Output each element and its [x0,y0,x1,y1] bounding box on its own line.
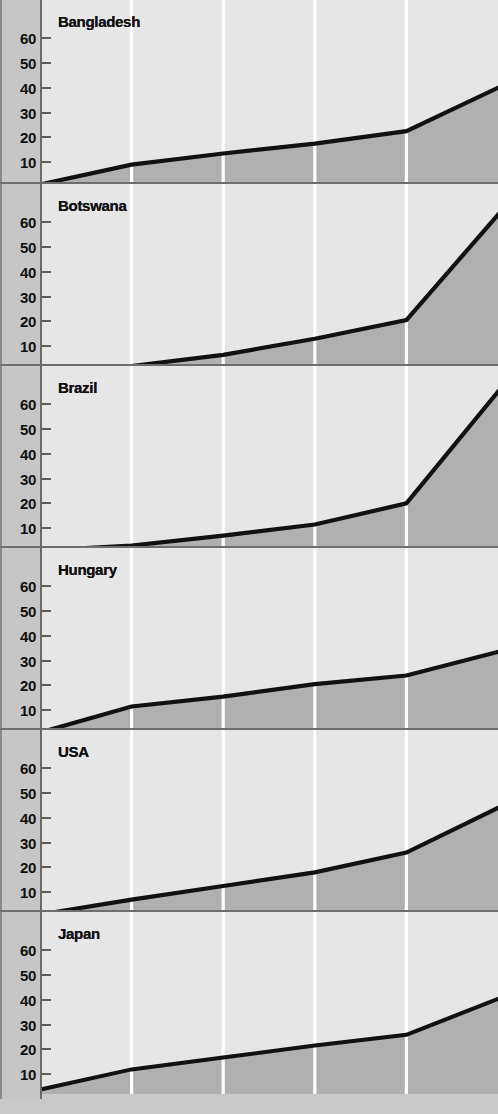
panel-title-botswana: Botswana [58,197,126,214]
y-axis-tick-mark [42,296,51,298]
y-axis-tick-mark [42,403,51,405]
y-axis-tick-mark [42,221,51,223]
gridline [130,366,133,546]
y-axis-tick-mark [42,1048,51,1050]
y-axis-tick-mark [42,246,51,248]
gridline [405,184,408,364]
y-axis-tick-mark [42,161,51,163]
y-axis-tick-label: 40 [2,446,36,461]
gridline [313,366,316,546]
chart-panel: 605040302010Bangladesh [0,0,498,182]
y-axis-tick-label: 10 [2,339,36,354]
y-axis-tick-label: 40 [2,264,36,279]
y-axis-tick-label: 40 [2,80,36,95]
y-axis-tick-mark [42,453,51,455]
y-axis-tick-mark [42,87,51,89]
gridline [313,912,316,1094]
y-axis-tick-mark [42,478,51,480]
gridline [222,548,225,728]
chart-panel: 605040302010Brazil [0,364,498,546]
y-axis-tick-mark [42,635,51,637]
gridline [222,730,225,910]
y-axis-tick-label: 50 [2,786,36,801]
y-axis-gutter: 605040302010 [0,912,40,1099]
y-axis-tick-mark [42,684,51,686]
chart-panel: 605040302010Japan [0,910,498,1099]
y-axis-tick-label: 30 [2,653,36,668]
y-axis-tick-label: 20 [2,860,36,875]
gridline [130,730,133,910]
y-axis-line [40,184,42,364]
gridline [313,548,316,728]
y-axis-line [40,912,42,1099]
y-axis-tick-label: 30 [2,105,36,120]
y-axis-tick-mark [42,62,51,64]
y-axis-tick-label: 30 [2,1017,36,1032]
y-axis-tick-label: 20 [2,496,36,511]
y-axis-tick-label: 10 [2,521,36,536]
y-axis-line [40,366,42,546]
gridline [405,548,408,728]
y-axis-tick-label: 10 [2,885,36,900]
gridline [222,184,225,364]
y-axis-gutter: 605040302010 [0,0,40,182]
y-axis-tick-label: 40 [2,810,36,825]
y-axis-tick-label: 50 [2,968,36,983]
chart-panel: 605040302010Botswana [0,182,498,364]
y-axis-tick-label: 50 [2,240,36,255]
plot-area [40,730,498,910]
y-axis-tick-label: 60 [2,579,36,594]
y-axis-tick-label: 20 [2,130,36,145]
y-axis-line [40,730,42,910]
gridline [130,912,133,1094]
y-axis-tick-mark [42,1024,51,1026]
y-axis-tick-mark [42,817,51,819]
panel-title-bangladesh: Bangladesh [58,13,140,30]
y-axis-tick-mark [42,792,51,794]
y-axis-tick-label: 60 [2,397,36,412]
y-axis-tick-label: 60 [2,31,36,46]
chart-panel: 605040302010USA [0,728,498,910]
y-axis-tick-mark [42,271,51,273]
y-axis-tick-mark [42,502,51,504]
y-axis-tick-label: 60 [2,215,36,230]
y-axis-tick-mark [42,949,51,951]
gridline [405,730,408,910]
y-axis-tick-label: 30 [2,835,36,850]
y-axis-tick-mark [42,37,51,39]
y-axis-tick-label: 40 [2,628,36,643]
y-axis-tick-label: 20 [2,1042,36,1057]
y-axis-tick-label: 30 [2,289,36,304]
y-axis-tick-mark [42,842,51,844]
panel-title-hungary: Hungary [58,561,117,578]
y-axis-tick-mark [42,891,51,893]
y-axis-tick-label: 60 [2,761,36,776]
y-axis-tick-label: 40 [2,992,36,1007]
y-axis-tick-mark [42,112,51,114]
y-axis-gutter: 605040302010 [0,548,40,728]
y-axis-tick-mark [42,345,51,347]
y-axis-tick-mark [42,660,51,662]
y-axis-gutter: 605040302010 [0,366,40,546]
gridline [313,0,316,182]
panel-title-usa: USA [58,743,89,760]
y-axis-gutter: 605040302010 [0,184,40,364]
gridline [222,366,225,546]
gridline [405,912,408,1094]
y-axis-tick-label: 10 [2,155,36,170]
plot-area [40,912,498,1099]
y-axis-tick-mark [42,866,51,868]
gridline [130,548,133,728]
y-axis-tick-mark [42,767,51,769]
y-axis-line [40,0,42,182]
y-axis-tick-mark [42,709,51,711]
y-axis-tick-label: 10 [2,703,36,718]
y-axis-tick-label: 60 [2,943,36,958]
plot-area [40,366,498,546]
y-axis-tick-mark [42,1073,51,1075]
chart-panel: 605040302010Hungary [0,546,498,728]
y-axis-tick-label: 20 [2,678,36,693]
y-axis-tick-label: 10 [2,1067,36,1082]
y-axis-tick-mark [42,428,51,430]
panel-title-japan: Japan [58,925,100,942]
